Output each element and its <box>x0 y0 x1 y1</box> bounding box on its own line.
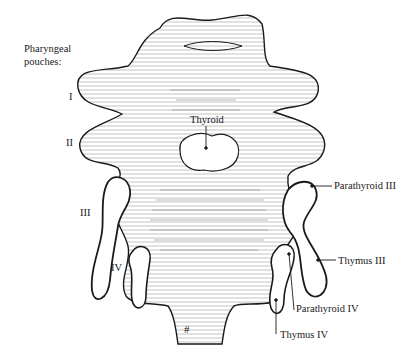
pouch-numeral-ii: II <box>66 137 73 149</box>
thymus-iii-label: Thymus III <box>338 255 386 267</box>
pouch-numeral-iii: III <box>80 207 91 219</box>
thyroid-label: Thyroid <box>190 114 224 126</box>
artist-signature: # <box>184 323 190 335</box>
pouch-numeral-iv: IV <box>111 262 122 274</box>
thyroid-gland <box>180 134 239 171</box>
title-line-1: Pharyngeal <box>24 43 71 54</box>
pouch-numeral-i: I <box>69 91 73 103</box>
pharyngeal-pouches-title: Pharyngeal pouches: <box>24 42 94 68</box>
parathyroid-iv-label: Parathyroid IV <box>296 303 359 315</box>
thymus-iv-label: Thymus IV <box>280 329 328 341</box>
parathyroid-iii-label: Parathyroid III <box>334 180 396 192</box>
title-line-2: pouches: <box>24 56 61 67</box>
